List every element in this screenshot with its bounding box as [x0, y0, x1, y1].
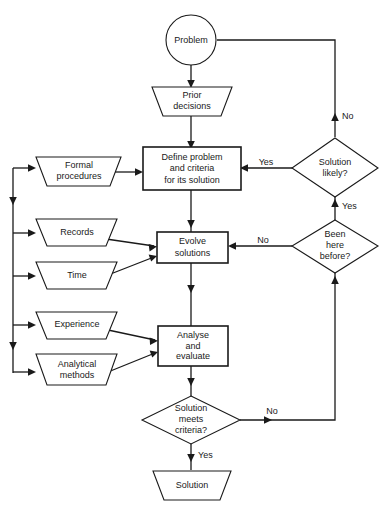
node-evolve-solutions[interactable]: Evolve solutions: [157, 232, 228, 263]
edge-label-problem-no: No: [342, 111, 354, 121]
formal-procedures-label-line1: Formal: [65, 160, 93, 170]
analytical-methods-label-line1: Analytical: [58, 359, 97, 369]
edge-label-solution-likely-to-been-here-yes: Yes: [342, 201, 357, 211]
node-been-here-before[interactable]: Been here before?: [292, 220, 378, 273]
arrowhead-records-to-evolve: [149, 244, 157, 251]
arrowhead-rail-to-experience: [28, 321, 36, 329]
edge-label-solution-likely-yes: Yes: [259, 157, 274, 167]
time-label: Time: [67, 270, 87, 280]
node-prior-decisions[interactable]: Prior decisions: [152, 87, 232, 116]
evolve-solutions-label-line2: solutions: [175, 248, 211, 258]
arrowhead-back-to-been-here: [331, 276, 339, 284]
node-solution-likely[interactable]: Solution likely?: [292, 138, 378, 197]
define-problem-label-line2: and criteria: [170, 163, 215, 173]
arrowhead-experience-to-analyse: [150, 338, 158, 346]
been-here-before-label-line3: before?: [320, 251, 351, 261]
node-experience[interactable]: Experience: [36, 312, 117, 339]
records-label: Records: [60, 227, 94, 237]
been-here-before-label-line2: here: [326, 240, 344, 250]
solution-likely-label-line1: Solution: [319, 157, 352, 167]
node-records[interactable]: Records: [36, 219, 117, 246]
analyse-evaluate-label-line2: and: [185, 341, 200, 351]
arrowhead-rail-to-time: [28, 272, 36, 280]
edge-problem-to-solution-likely: [217, 40, 335, 137]
flowchart-canvas: Problem Prior decisions Define problem a…: [0, 0, 388, 509]
prior-decisions-label-line1: Prior: [182, 90, 201, 100]
arrowhead-analytical-to-analyse: [150, 350, 158, 357]
solution-likely-label-line2: likely?: [322, 168, 347, 178]
arrowhead-rail-to-analytical: [28, 368, 36, 376]
edge-label-solution-meets-no: No: [266, 406, 278, 416]
solution-label: Solution: [176, 480, 209, 490]
arrowhead-define-to-evolve: [187, 220, 195, 228]
arrowhead-solution-meets-yes: [187, 454, 195, 462]
arrowhead-problem-to-solution-likely: [331, 113, 339, 121]
arrowhead-solution-meets-no: [264, 416, 272, 424]
evolve-solutions-label-line1: Evolve: [179, 236, 206, 246]
arrowhead-evolve-to-analyse: [187, 285, 195, 293]
arrowhead-left-rail-1: [9, 197, 17, 205]
analyse-evaluate-label-line3: evaluate: [176, 351, 210, 361]
arrowhead-rail-to-records: [28, 229, 36, 237]
solution-meets-label-line2: meets: [179, 414, 204, 424]
node-define-problem[interactable]: Define problem and criteria for its solu…: [143, 147, 241, 190]
arrowhead-formal-to-define: [135, 168, 143, 176]
arrowhead-been-here-no: [228, 242, 236, 250]
node-solution[interactable]: Solution: [153, 471, 231, 500]
experience-label: Experience: [54, 319, 99, 329]
solution-meets-label-line3: criteria?: [175, 425, 207, 435]
edge-records-to-evolve: [106, 239, 154, 246]
node-solution-meets-criteria[interactable]: Solution meets criteria?: [142, 396, 240, 444]
node-analytical-methods[interactable]: Analytical methods: [36, 354, 117, 385]
solution-meets-label-line1: Solution: [175, 403, 208, 413]
node-analyse-evaluate[interactable]: Analyse and evaluate: [158, 326, 228, 366]
arrowhead-left-rail-2: [9, 342, 17, 350]
formal-procedures-label-line2: procedures: [56, 171, 102, 181]
edge-label-solution-meets-yes: Yes: [198, 450, 213, 460]
arrowhead-solution-likely-to-been-here: [331, 199, 339, 207]
edge-label-been-here-no: No: [257, 235, 269, 245]
edge-solution-meets-no-to-been-here: [240, 272, 335, 420]
analytical-methods-label-line2: methods: [60, 370, 95, 380]
shapes-layer: Problem Prior decisions Define problem a…: [36, 15, 378, 500]
problem-label: Problem: [174, 35, 208, 45]
arrowhead-rail-to-formal: [28, 164, 36, 172]
been-here-before-label-line1: Been: [324, 229, 345, 239]
edge-experience-to-analyse: [108, 330, 155, 340]
prior-decisions-label-line2: decisions: [173, 101, 211, 111]
flowchart-page: Problem Prior decisions Define problem a…: [0, 0, 388, 509]
define-problem-label-line3: for its solution: [164, 175, 220, 185]
analyse-evaluate-label-line1: Analyse: [177, 330, 209, 340]
define-problem-label-line1: Define problem: [161, 152, 222, 162]
node-time[interactable]: Time: [36, 262, 117, 289]
node-problem[interactable]: Problem: [166, 15, 216, 65]
node-formal-procedures[interactable]: Formal procedures: [36, 157, 121, 186]
arrowhead-analyse-to-solution-meets: [187, 378, 195, 386]
